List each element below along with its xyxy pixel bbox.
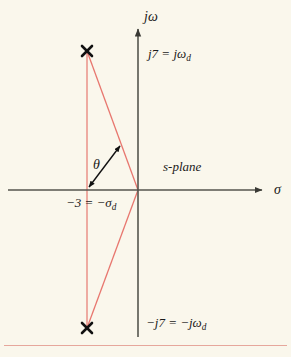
real-axis-label: σ bbox=[274, 183, 281, 197]
s-plane-figure: jω σ j7 = jωd −j7 = −jωd −3 = −σd s-plan… bbox=[0, 0, 291, 357]
real-part-value-text: −3 = −σ bbox=[66, 195, 112, 210]
s-plane-text: s-plane bbox=[163, 159, 201, 174]
real-part-value-label: −3 = −σd bbox=[66, 196, 116, 212]
lower-pole-value-text: −j7 = −jω bbox=[146, 315, 202, 330]
lower-pole-subscript: d bbox=[202, 322, 207, 332]
upper-pole-value-label: j7 = jωd bbox=[148, 47, 191, 63]
real-part-subscript: d bbox=[112, 202, 117, 212]
lower-pole-value-label: −j7 = −jωd bbox=[146, 316, 206, 332]
s-plane-label: s-plane bbox=[163, 160, 201, 173]
theta-label: θ bbox=[93, 158, 100, 172]
upper-pole-subscript: d bbox=[186, 53, 191, 63]
plot-canvas bbox=[0, 0, 291, 357]
upper-pole-value-text: j7 = jω bbox=[148, 46, 186, 61]
bottom-divider bbox=[4, 345, 287, 346]
imaginary-axis-label: jω bbox=[144, 10, 158, 24]
